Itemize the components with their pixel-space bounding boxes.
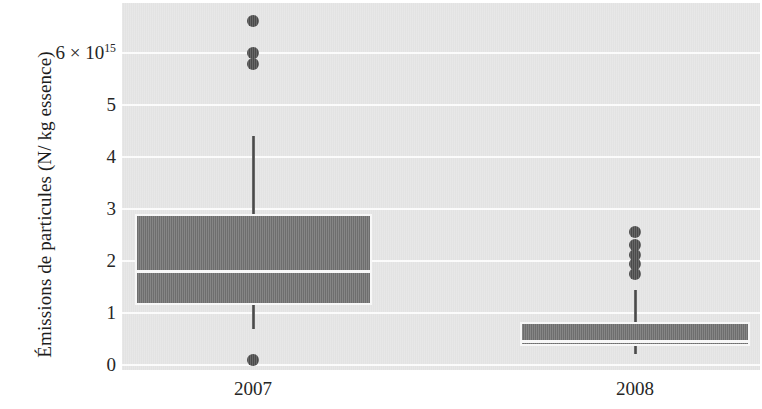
outlier-point bbox=[629, 268, 641, 280]
outlier-point bbox=[629, 226, 641, 238]
y-tick-label: 1 bbox=[0, 302, 116, 324]
whisker-upper bbox=[634, 290, 637, 322]
y-tick-label: 4 bbox=[0, 146, 116, 168]
whisker-lower bbox=[634, 346, 637, 353]
box-2008 bbox=[122, 3, 760, 370]
median-line bbox=[520, 340, 750, 343]
box-iqr bbox=[520, 322, 750, 346]
y-tick-label: 5 bbox=[0, 94, 116, 116]
boxplot-figure: Émissions de particules (N/ kg essence) … bbox=[0, 0, 762, 409]
plot-panel bbox=[122, 3, 760, 370]
x-tick-label-2008: 2008 bbox=[555, 378, 715, 400]
y-tick-label: 3 bbox=[0, 198, 116, 220]
outlier-point bbox=[629, 239, 641, 251]
y-tick-label: 2 bbox=[0, 250, 116, 272]
y-axis-tick-labels: 6 × 1015543210 bbox=[0, 3, 116, 370]
y-tick-label: 0 bbox=[0, 354, 116, 376]
y-tick-label: 6 × 1015 bbox=[0, 42, 116, 64]
x-tick-label-2007: 2007 bbox=[173, 378, 333, 400]
